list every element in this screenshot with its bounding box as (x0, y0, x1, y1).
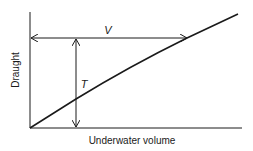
x-axis-label: Underwater volume (89, 135, 176, 146)
draught-volume-curve (30, 14, 238, 128)
volume-symbol-label: V (104, 24, 113, 36)
draught-symbol-label: T (81, 78, 89, 90)
y-axis-label: Draught (10, 52, 21, 88)
diagram: V T Underwater volume Draught (0, 0, 253, 151)
